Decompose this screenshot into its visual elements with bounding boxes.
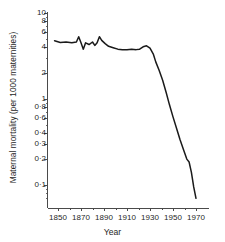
y-axis-tick-label: 6 <box>42 28 46 36</box>
y-axis-tick-label: 0·4 <box>34 129 46 137</box>
y-axis-tick-label: 0·3 <box>34 140 46 148</box>
chart-figure: 10864210·80·60·40·30·20·1 18501870189019… <box>0 0 225 242</box>
x-axis-tick-label: 1970 <box>187 214 205 222</box>
y-axis-tick-label: 8 <box>42 17 46 25</box>
x-axis-tick-label: 1870 <box>72 214 90 222</box>
y-axis-tick-label: 0·8 <box>34 103 46 111</box>
y-axis-tick-label: 0·6 <box>34 114 46 122</box>
y-axis-tick-label: 0·1 <box>34 181 46 189</box>
x-axis-title: Year <box>0 227 225 237</box>
data-series-group <box>55 37 196 199</box>
y-axis-tick-label: 2 <box>42 69 46 77</box>
axis-lines <box>48 12 210 208</box>
y-axis-tick-label: 0·2 <box>34 155 46 163</box>
x-axis-tick-label: 1930 <box>141 214 159 222</box>
x-axis-tick-label: 1910 <box>118 214 136 222</box>
x-axis-tick-marks <box>59 208 197 211</box>
y-axis-tick-label: 4 <box>42 43 46 51</box>
x-axis-tick-label: 1890 <box>95 214 113 222</box>
x-axis-tick-label: 1850 <box>49 214 67 222</box>
y-axis-title: Maternal mortality (per 1000 maternities… <box>9 13 18 203</box>
x-axis-tick-label: 1950 <box>164 214 182 222</box>
